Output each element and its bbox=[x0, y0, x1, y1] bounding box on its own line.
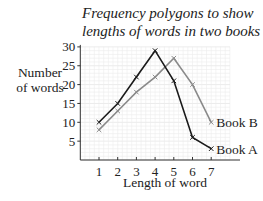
y-tick-label: 5 bbox=[69, 134, 76, 149]
x-tick-label: 7 bbox=[208, 164, 215, 179]
x-tick-label: 6 bbox=[189, 164, 196, 179]
x-tick-label: 1 bbox=[96, 164, 103, 179]
y-tick-label: 15 bbox=[62, 96, 75, 111]
chart-plot: 510152025301234567Book BBook A bbox=[0, 0, 263, 201]
x-tick-label: 4 bbox=[152, 164, 159, 179]
book-a-legend-label: Book A bbox=[216, 142, 258, 157]
x-tick-label: 2 bbox=[114, 164, 121, 179]
y-tick-label: 25 bbox=[62, 58, 75, 73]
y-tick-label: 10 bbox=[62, 115, 75, 130]
x-tick-label: 3 bbox=[133, 164, 140, 179]
x-tick-label: 5 bbox=[171, 164, 178, 179]
y-tick-label: 30 bbox=[62, 39, 75, 54]
y-tick-label: 20 bbox=[62, 77, 75, 92]
book-b-legend-label: Book B bbox=[216, 115, 258, 130]
grid bbox=[80, 47, 230, 160]
